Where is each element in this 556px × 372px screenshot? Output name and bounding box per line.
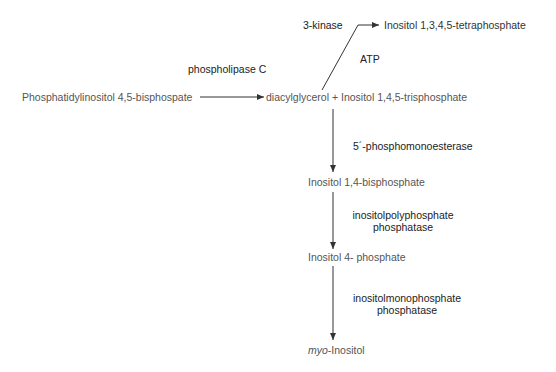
compound-dag-ip3: diacylglycerol + Inositol 1,4,5-trisphos… bbox=[266, 91, 467, 103]
enzyme-inositolmonophosphate-phosphatase: inositolmonophosphate phosphatase bbox=[351, 292, 463, 316]
compound-pip2: Phosphatidylinositol 4,5-bisphospate bbox=[22, 91, 192, 103]
compound-ip1: Inositol 4- phosphate bbox=[308, 251, 405, 263]
enzyme-line-1: inositolpolyphosphate bbox=[352, 209, 454, 221]
myo-prefix: myo bbox=[308, 344, 328, 356]
cofactor-atp: ATP bbox=[360, 53, 380, 65]
inositol-suffix: -Inositol bbox=[328, 344, 365, 356]
enzyme-phospholipase-c: phospholipase C bbox=[188, 63, 266, 75]
enzyme-inositolpolyphosphate-phosphatase: inositolpolyphosphate phosphatase bbox=[352, 209, 454, 233]
enzyme-5-phosphomonoesterase: 5´-phosphomonoesterase bbox=[353, 140, 473, 152]
pathway-arrows bbox=[0, 0, 556, 372]
compound-ip4: Inositol 1,3,4,5-tetraphosphate bbox=[384, 19, 526, 31]
compound-myo-inositol: myo-Inositol bbox=[308, 344, 365, 356]
enzyme-line-2: phosphatase bbox=[351, 304, 463, 316]
compound-ip2: Inositol 1,4-bisphosphate bbox=[308, 176, 425, 188]
enzyme-line-2: phosphatase bbox=[352, 221, 454, 233]
enzyme-3-kinase: 3-kinase bbox=[303, 19, 343, 31]
enzyme-line-1: inositolmonophosphate bbox=[351, 292, 463, 304]
